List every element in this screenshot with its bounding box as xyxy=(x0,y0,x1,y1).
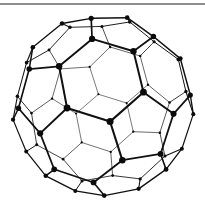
graph-edge xyxy=(182,114,193,149)
graph-vertex xyxy=(159,131,162,134)
graph-edge xyxy=(153,37,180,59)
graph-vertex xyxy=(191,112,195,116)
graph-edge xyxy=(61,67,90,69)
graph-edge xyxy=(140,156,165,179)
graph-edge xyxy=(102,22,130,26)
graph-vertex xyxy=(139,55,142,58)
graph-vertex xyxy=(163,154,166,157)
graph-vertex xyxy=(16,106,21,111)
graph-edge xyxy=(13,120,26,152)
graph-edge xyxy=(63,142,82,159)
polyhedron-graph-svg xyxy=(0,6,205,207)
graph-vertex xyxy=(89,36,95,42)
graph-vertex xyxy=(64,105,71,112)
graph-vertex xyxy=(109,46,111,48)
graph-vertex xyxy=(31,45,36,50)
graph-edge xyxy=(94,160,123,182)
graph-edge xyxy=(90,47,110,67)
graph-vertex xyxy=(170,111,176,117)
graph-edge xyxy=(111,152,113,176)
graph-edge xyxy=(148,85,170,103)
graph-vertex xyxy=(97,93,99,95)
graph-vertex xyxy=(125,15,130,20)
graph-edge xyxy=(75,191,104,196)
graph-vertex xyxy=(75,112,77,114)
graph-vertex xyxy=(147,84,149,86)
graph-vertex xyxy=(16,95,19,98)
graph-vertex xyxy=(91,180,97,186)
graph-edge xyxy=(52,69,60,99)
graph-edge xyxy=(90,67,99,94)
graph-edge xyxy=(82,142,111,151)
graph-edge xyxy=(170,92,186,103)
graph-vertex xyxy=(136,187,140,191)
graph-edge xyxy=(40,108,67,133)
graph-vertex xyxy=(168,101,171,104)
graph-edge xyxy=(26,151,46,175)
graph-vertex xyxy=(81,141,83,143)
graph-vertex xyxy=(24,150,28,154)
graph-edge xyxy=(91,18,127,19)
graph-vertex xyxy=(68,26,71,29)
graph-vertex xyxy=(188,93,193,98)
graph-vertex xyxy=(73,189,77,193)
graph-edge xyxy=(31,99,52,113)
graph-vertex xyxy=(164,167,169,172)
graph-vertex xyxy=(80,179,83,182)
graph-vertex xyxy=(43,174,48,179)
graph-vertex xyxy=(37,130,43,136)
graph-edge xyxy=(104,189,138,196)
graph-vertex xyxy=(139,177,142,180)
graph-vertex xyxy=(30,112,33,115)
figure-page xyxy=(0,0,205,207)
graph-vertex xyxy=(119,157,125,163)
graph-edge xyxy=(76,94,98,113)
graph-vertex xyxy=(184,90,187,93)
graph-edge xyxy=(29,66,59,69)
graph-vertex xyxy=(26,66,32,72)
graph-edge xyxy=(127,18,153,37)
graph-edge xyxy=(92,39,133,51)
graph-vertex xyxy=(89,66,91,68)
graph-edge xyxy=(139,169,166,188)
graph-vertex xyxy=(126,102,128,104)
graph-edge xyxy=(134,51,144,92)
graph-edge xyxy=(62,18,91,23)
graph-vertex xyxy=(180,147,184,151)
graph-edge xyxy=(122,154,160,160)
graph-edge xyxy=(134,37,154,52)
graph-edge xyxy=(17,63,26,97)
graph-edge xyxy=(133,132,160,133)
graph-edge xyxy=(110,92,143,121)
graph-vertex xyxy=(25,61,29,65)
graph-edge xyxy=(67,108,110,122)
graph-vertex xyxy=(151,34,156,39)
graph-vertex xyxy=(56,63,62,69)
graph-vertex xyxy=(62,158,65,161)
graph-edge xyxy=(76,114,82,143)
graph-vertex xyxy=(110,151,112,153)
graph-edge xyxy=(110,122,122,161)
polyhedron-figure xyxy=(0,6,205,207)
graph-edge xyxy=(161,114,174,154)
graph-vertex xyxy=(60,21,64,25)
graph-edge xyxy=(18,69,29,108)
graph-vertex xyxy=(11,117,15,121)
graph-edge xyxy=(46,176,76,191)
graph-edge xyxy=(59,39,92,66)
graph-vertex xyxy=(132,131,134,133)
header-rule xyxy=(0,3,205,5)
graph-vertex xyxy=(107,118,114,125)
graph-vertex xyxy=(140,89,147,96)
graph-vertex xyxy=(35,143,38,146)
graph-vertex xyxy=(158,151,164,157)
graph-vertex xyxy=(153,40,156,43)
graph-edge xyxy=(59,66,67,108)
graph-vertex xyxy=(51,97,53,99)
graph-edge xyxy=(33,24,62,48)
graph-vertex xyxy=(100,25,103,28)
graph-edge xyxy=(113,176,141,179)
graph-vertex xyxy=(89,16,94,21)
graph-edge xyxy=(18,108,40,133)
graph-edge xyxy=(40,133,54,169)
